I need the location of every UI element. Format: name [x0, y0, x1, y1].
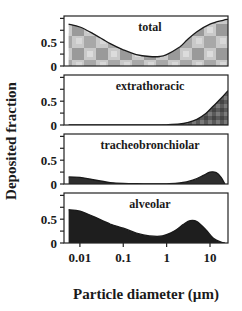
y-tick-label: 0 — [51, 236, 58, 251]
area-tracheobronchiolar — [69, 172, 225, 184]
x-tick-label: 0.01 — [69, 250, 92, 265]
panel-title: alveolar — [129, 197, 171, 211]
x-tick-label: 10 — [204, 250, 217, 265]
y-axis-label: Deposited fraction — [3, 82, 20, 200]
y-tick-label: 0 — [51, 177, 58, 192]
panel-title: total — [138, 20, 162, 34]
panel-title: tracheobronchiolar — [100, 138, 200, 152]
y-tick-label: 0.5 — [41, 212, 58, 227]
x-tick-label: 1 — [163, 250, 170, 265]
y-tick-label: 0 — [51, 59, 58, 74]
panel-stack: 00.5total00.5extrathoracic00.5tracheobro… — [0, 0, 242, 311]
area-alveolar — [69, 210, 225, 243]
y-tick-label: 0 — [51, 118, 58, 133]
area-extrathoracic — [69, 91, 228, 125]
panel-extrathoracic: 00.5extrathoracic — [41, 75, 228, 133]
panel-total: 00.5total — [41, 16, 228, 74]
panel-alveolar: 00.5alveolar0.010.1110 — [41, 193, 228, 265]
panel-tracheobronchiolar: 00.5tracheobronchiolar — [41, 134, 228, 192]
panel-title: extrathoracic — [116, 79, 185, 93]
y-tick-label: 0.5 — [41, 35, 58, 50]
y-tick-label: 0.5 — [41, 153, 58, 168]
x-axis-label: Particle diameter (µm) — [64, 286, 228, 303]
x-tick-label: 0.1 — [115, 250, 131, 265]
deposition-figure: 00.5total00.5extrathoracic00.5tracheobro… — [0, 0, 242, 311]
y-tick-label: 0.5 — [41, 94, 58, 109]
